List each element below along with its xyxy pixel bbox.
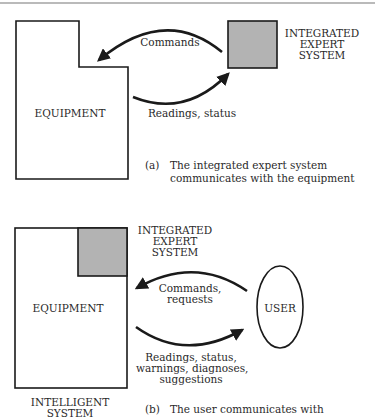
expert-system-label-a: INTEGRATED EXPERT SYSTEM [282,28,362,61]
expert-system-box-b [78,228,127,276]
commands-requests-line: requests [150,294,230,305]
commands-label-a: Commands [130,37,210,48]
readings-warnings-arrow [136,327,242,345]
expert-system-label-line: SYSTEM [135,247,215,258]
readings-warnings-label: Readings, status, warnings, diagnoses, s… [136,352,246,385]
caption-a-line: communicates with the equipment [170,172,354,185]
expert-system-label-b: INTEGRATED EXPERT SYSTEM [135,225,215,258]
commands-requests-label: Commands, requests [150,283,230,305]
readings-status-label-a: Readings, status [142,108,242,119]
equipment-label-b: EQUIPMENT [18,303,118,314]
expert-system-label-line: SYSTEM [282,50,362,61]
readings-warnings-line: suggestions [136,374,246,385]
caption-a-line: The integrated expert system [170,159,354,172]
equipment-box-a [16,21,128,179]
user-label: USER [258,303,302,314]
caption-b-line: The user communicates with [170,403,324,416]
caption-marker-b: (b) [145,403,160,416]
intelligent-system-label: INTELLIGENT SYSTEM [20,397,120,419]
readings-arrow-a [133,74,228,104]
expert-system-box-a [228,21,277,68]
caption-marker-a: (a) [145,159,159,172]
equipment-label-a: EQUIPMENT [20,108,120,119]
intelligent-system-line: SYSTEM [20,408,120,419]
